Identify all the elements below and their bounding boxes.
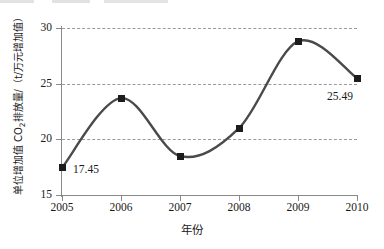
series-line	[0, 0, 384, 249]
data-point-2006	[118, 95, 125, 102]
data-point-2008	[236, 125, 243, 132]
data-point-2009	[295, 38, 302, 45]
data-point-2010	[354, 75, 361, 82]
y-axis-title-subscript: 2	[18, 122, 27, 127]
data-label-2005: 17.45	[73, 163, 99, 175]
y-axis-title-post: 排放量/（t/万元增加值）	[13, 12, 24, 123]
data-point-2005	[59, 164, 66, 171]
chart-figure: 30 25 20 15 2005 2006 2007 2008 2009 201…	[0, 0, 384, 249]
x-axis-title: 年份	[0, 221, 384, 237]
data-point-2007	[177, 153, 184, 160]
data-label-2010: 25.49	[327, 90, 353, 102]
y-axis-title-pre: 单位增加值 CO	[13, 127, 24, 195]
y-axis-title: 单位增加值 CO2排放量/（t/万元增加值）	[10, 6, 27, 202]
